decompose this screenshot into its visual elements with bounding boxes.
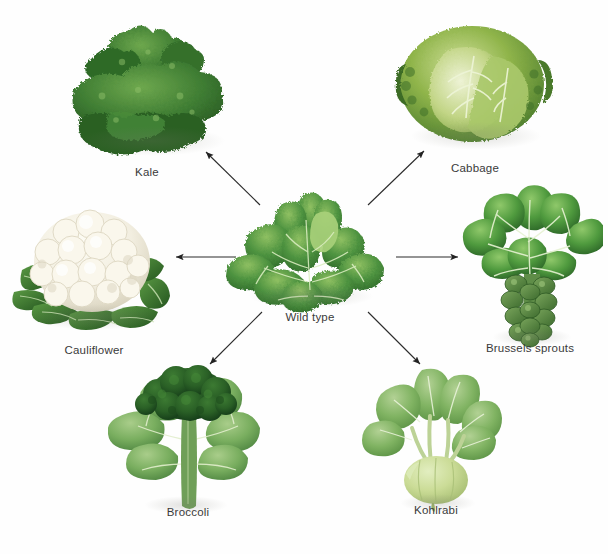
caption-cabbage: Cabbage xyxy=(375,162,575,174)
caption-wild-type: Wild type xyxy=(210,311,410,323)
cauliflower-illustration xyxy=(8,196,178,336)
kale-illustration xyxy=(52,14,242,164)
wild-type-node[interactable]: Wild type xyxy=(224,186,396,314)
caption-kale: Kale xyxy=(47,166,247,178)
caption-broccoli: Broccoli xyxy=(88,506,288,518)
caption-cauliflower: Cauliflower xyxy=(0,344,194,356)
variety-cauliflower[interactable]: Cauliflower xyxy=(8,196,178,336)
variety-kohlrabi[interactable]: Kohlrabi xyxy=(360,362,510,512)
broccoli-head-icon xyxy=(108,356,268,514)
caption-kohlrabi: Kohlrabi xyxy=(336,504,536,516)
variety-broccoli[interactable]: Broccoli xyxy=(108,356,268,514)
figure-canvas: Kale xyxy=(0,0,608,554)
wild-type-illustration xyxy=(224,186,396,314)
variety-cabbage[interactable]: Cabbage xyxy=(388,16,558,156)
brussels-sprouts-illustration xyxy=(458,180,603,350)
brussels-sprout-stalk-icon xyxy=(458,180,603,350)
variety-brussels-sprouts[interactable]: Brussels sprouts xyxy=(458,180,603,350)
kohlrabi-illustration xyxy=(360,362,510,512)
variety-kale[interactable]: Kale xyxy=(52,14,242,164)
caption-brussels-sprouts: Brussels sprouts xyxy=(430,342,608,354)
cabbage-illustration xyxy=(388,16,558,156)
broccoli-illustration xyxy=(108,356,268,514)
kohlrabi-bulb-icon xyxy=(360,362,510,512)
